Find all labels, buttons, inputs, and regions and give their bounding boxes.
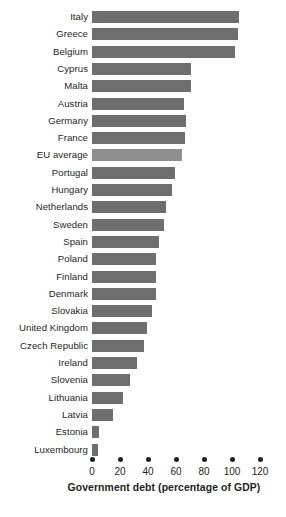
category-label: Estonia [0,425,88,438]
x-tick-label: 120 [240,465,280,478]
chart-row: Belgium [0,46,286,58]
bar [92,236,159,248]
category-label: Portugal [0,166,88,179]
category-label: Sweden [0,218,88,231]
bar [92,167,175,179]
chart-row: Czech Republic [0,340,286,352]
x-axis-title-text: Government debt (percentage of GDP) [26,482,261,493]
chart-row: Finland [0,271,286,283]
bar [92,80,191,92]
category-label: Latvia [0,408,88,421]
x-tick-marker [174,457,179,462]
category-label: Hungary [0,183,88,196]
chart-row: Spain [0,236,286,248]
category-label: France [0,131,88,144]
bar [92,288,156,300]
chart-row: France [0,132,286,144]
category-label: Italy [0,10,88,23]
category-label: Denmark [0,287,88,300]
x-axis-title: Government debt (percentage of GDP) [0,482,286,493]
category-label: Spain [0,235,88,248]
chart-row: Cyprus [0,63,286,75]
category-label: EU average [0,148,88,161]
bar [92,132,185,144]
x-tick-marker [118,457,123,462]
bar [92,271,156,283]
chart-row: Italy [0,11,286,23]
category-label: Austria [0,97,88,110]
x-tick-marker [146,457,151,462]
chart-row: Denmark [0,288,286,300]
bar [92,11,239,23]
chart-row: Germany [0,115,286,127]
x-tick-marker [202,457,207,462]
chart-row: Slovakia [0,305,286,317]
bar [92,322,147,334]
chart-row: Latvia [0,409,286,421]
bar [92,184,172,196]
category-label: Netherlands [0,200,88,213]
chart-row: Lithuania [0,392,286,404]
bar [92,149,182,161]
bar [92,253,156,265]
government-debt-bar-chart: ItalyGreeceBelgiumCyprusMaltaAustriaGerm… [0,0,286,517]
chart-row: Sweden [0,219,286,231]
bar [92,340,144,352]
x-axis: 020406080100120 Government debt (percent… [0,452,286,517]
category-label: Finland [0,270,88,283]
category-label: Lithuania [0,391,88,404]
bar [92,201,166,213]
bar [92,357,137,369]
bar [92,392,123,404]
bar [92,115,186,127]
bar [92,409,113,421]
category-label: Ireland [0,356,88,369]
x-tick-marker [90,457,95,462]
category-label: Poland [0,252,88,265]
chart-row: Slovenia [0,374,286,386]
category-label: United Kingdom [0,321,88,334]
bar [92,28,238,40]
chart-row: Poland [0,253,286,265]
category-label: Slovakia [0,304,88,317]
chart-row: Portugal [0,167,286,179]
chart-row: Ireland [0,357,286,369]
bar [92,63,191,75]
bar [92,46,235,58]
chart-row: Estonia [0,426,286,438]
chart-row: United Kingdom [0,322,286,334]
chart-row: Malta [0,80,286,92]
x-tick-marker [230,457,235,462]
chart-row: Hungary [0,184,286,196]
category-label: Czech Republic [0,339,88,352]
category-label: Greece [0,27,88,40]
x-tick-marker [258,457,263,462]
category-label: Belgium [0,45,88,58]
category-label: Cyprus [0,62,88,75]
bar [92,374,130,386]
chart-row: Austria [0,98,286,110]
category-label: Germany [0,114,88,127]
bar [92,426,99,438]
bar [92,98,184,110]
category-label: Slovenia [0,373,88,386]
bar [92,305,152,317]
plot-area: ItalyGreeceBelgiumCyprusMaltaAustriaGerm… [0,0,286,452]
category-label: Malta [0,79,88,92]
chart-row: Greece [0,28,286,40]
chart-row: Netherlands [0,201,286,213]
chart-row: EU average [0,149,286,161]
bar [92,219,164,231]
